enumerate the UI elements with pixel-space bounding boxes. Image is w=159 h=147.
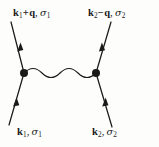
spin-subscript: 2 (113, 131, 117, 139)
right-vertex-dot (92, 69, 100, 77)
label-top-right-momentum: k2−q, σ2 (88, 8, 125, 20)
spin-symbol: σ (40, 7, 47, 18)
label-bottom-left-momentum: k1, σ1 (17, 127, 42, 139)
fermion-line-incoming-right (96, 73, 112, 127)
label-top-left-momentum: k1+q, σ1 (13, 8, 50, 20)
label-bottom-right-momentum: k2, σ2 (92, 127, 117, 139)
feynman-diagram-canvas (0, 0, 159, 147)
spin-subscript: 2 (122, 12, 126, 20)
feynman-diagram: k1+q, σ1 k2−q, σ2 k1, σ1 k2, σ2 (0, 0, 159, 147)
wavy-interaction-line (24, 69, 96, 78)
left-vertex-dot (20, 69, 28, 77)
spin-symbol: σ (115, 7, 122, 18)
arrowhead-outgoing-left (17, 43, 23, 52)
arrowhead-incoming-left (13, 98, 19, 107)
spin-subscript: 1 (38, 131, 42, 139)
spin-subscript: 1 (47, 12, 51, 20)
